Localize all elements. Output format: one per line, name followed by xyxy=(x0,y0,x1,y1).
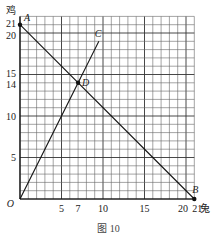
y-tick-label: 5 xyxy=(11,152,16,163)
point-d xyxy=(76,81,80,85)
line-oc xyxy=(20,41,99,199)
x-axis-label: 兔 xyxy=(200,202,210,214)
y-tick-label: 15 xyxy=(6,68,16,79)
y-tick-label: 10 xyxy=(6,111,16,122)
point-label-c: C xyxy=(95,28,102,39)
x-tick-label: 5 xyxy=(59,203,64,214)
x-tick-label: 20 xyxy=(178,203,188,214)
point-a xyxy=(18,23,22,27)
y-tick-label: 20 xyxy=(6,30,16,41)
y-tick-label: 21 xyxy=(6,18,16,29)
line-ab xyxy=(20,25,194,199)
point-label-b: B xyxy=(192,184,198,195)
point-label-d: D xyxy=(81,77,90,88)
x-tick-label: 10 xyxy=(98,203,108,214)
chart: 571015202151014152021鸡兔OABCD xyxy=(0,0,217,233)
x-tick-label: 7 xyxy=(76,203,81,214)
point-b xyxy=(192,197,196,201)
x-tick-label: 15 xyxy=(140,203,150,214)
y-tick-label: 14 xyxy=(6,79,16,90)
point-label-a: A xyxy=(23,12,31,23)
y-axis-label: 鸡 xyxy=(6,4,16,16)
figure-caption: 图 10 xyxy=(0,220,217,233)
origin-label: O xyxy=(7,198,14,209)
